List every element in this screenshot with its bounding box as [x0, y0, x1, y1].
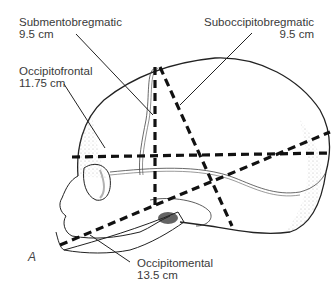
suboccipitobregmatic-line [160, 67, 232, 226]
label-occipitofrontal-name: Occipitofrontal [19, 65, 93, 77]
label-occipitomental-value: 13.5 cm [137, 269, 213, 281]
label-submentobregmatic-value: 9.5 cm [19, 28, 122, 40]
label-occipitomental: Occipitomental 13.5 cm [137, 257, 213, 281]
label-occipitomental-name: Occipitomental [137, 257, 213, 269]
skull-diagram [0, 0, 332, 290]
panel-label: A [28, 250, 36, 264]
leader-suboccipitobregmatic [180, 33, 252, 105]
label-suboccipitobregmatic-name: Suboccipitobregmatic [204, 16, 314, 28]
label-suboccipitobregmatic-value: 9.5 cm [204, 28, 314, 40]
leader-occipitomental [90, 235, 130, 262]
label-occipitofrontal-value: 11.75 cm [19, 77, 93, 89]
label-submentobregmatic: Submentobregmatic 9.5 cm [19, 16, 122, 40]
label-suboccipitobregmatic: Suboccipitobregmatic 9.5 cm [204, 16, 314, 40]
label-occipitofrontal: Occipitofrontal 11.75 cm [19, 65, 93, 89]
label-submentobregmatic-name: Submentobregmatic [19, 16, 122, 28]
